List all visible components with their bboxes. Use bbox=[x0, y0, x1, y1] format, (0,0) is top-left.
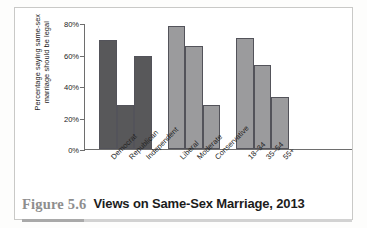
y-tick-mark bbox=[80, 87, 85, 88]
y-axis-tick-labels: 80% 60% 40% 20% 0% bbox=[48, 7, 79, 193]
axis-lead-gap bbox=[85, 148, 99, 149]
bar-series bbox=[85, 23, 289, 149]
caption-rule-accent bbox=[22, 219, 84, 222]
y-tick-label: 60% bbox=[49, 51, 79, 60]
figure-number: Figure 5.6 bbox=[22, 196, 87, 213]
bar-moderate[interactable] bbox=[185, 46, 203, 148]
bar-chart: Percentage saying same-sex marriage shou… bbox=[14, 7, 353, 193]
x-axis-tick-labels: Democrat Republican Independent Liberal … bbox=[84, 153, 352, 195]
bar-democrat[interactable] bbox=[99, 40, 117, 149]
plot-area bbox=[84, 7, 353, 150]
y-tick-label: 80% bbox=[49, 20, 79, 29]
y-tick-label: 40% bbox=[49, 83, 79, 92]
bar-group-party bbox=[99, 23, 152, 149]
figure-page: Percentage saying same-sex marriage shou… bbox=[0, 0, 367, 228]
y-tick-mark bbox=[80, 119, 85, 120]
y-tick-label: 20% bbox=[49, 114, 79, 123]
caption-rule bbox=[22, 219, 352, 222]
y-tick-label: 0% bbox=[49, 146, 79, 155]
figure-caption: Figure 5.6 Views on Same-Sex Marriage, 2… bbox=[22, 196, 352, 218]
bar-35-54[interactable] bbox=[254, 65, 272, 148]
y-tick-mark bbox=[80, 56, 85, 57]
y-tick-mark bbox=[80, 24, 85, 25]
y-tick-mark bbox=[80, 150, 85, 151]
figure-title: Views on Same-Sex Marriage, 2013 bbox=[94, 196, 305, 211]
